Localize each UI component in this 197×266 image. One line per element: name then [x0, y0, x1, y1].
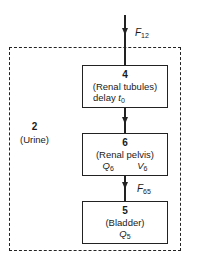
renal-pelvis-box: 6 (Renal pelvis) Q6 V6	[82, 133, 168, 176]
bladder-q: Q5	[83, 228, 167, 243]
bladder-number: 5	[83, 205, 167, 217]
urine-compartment-label: 2 (Urine)	[20, 120, 49, 146]
flow-6-to-5-label: F65	[137, 183, 151, 195]
renal-tubules-box: 4 (Renal tubules) delay t0	[82, 65, 168, 108]
inflow-line	[124, 15, 126, 66]
urine-compartment-name: (Urine)	[20, 133, 49, 146]
renal-pelvis-q: Q6	[103, 160, 114, 175]
inflow-label: F12	[135, 27, 149, 39]
renal-pelvis-name: (Renal pelvis)	[83, 149, 167, 161]
bladder-name: (Bladder)	[83, 217, 167, 229]
renal-pelvis-params: Q6 V6	[83, 160, 167, 175]
renal-pelvis-v: V6	[137, 160, 147, 175]
flow-6-to-5-arrow-icon	[122, 182, 128, 189]
urine-compartment-number: 2	[20, 120, 49, 133]
flow-4-to-6-arrow-icon	[122, 117, 128, 124]
renal-tubules-delay: delay t0	[83, 92, 167, 107]
renal-tubules-number: 4	[83, 69, 167, 81]
renal-tubules-name: (Renal tubules)	[83, 81, 167, 93]
bladder-box: 5 (Bladder) Q5	[82, 201, 168, 244]
inflow-arrow-icon	[122, 28, 128, 35]
renal-pelvis-number: 6	[83, 137, 167, 149]
